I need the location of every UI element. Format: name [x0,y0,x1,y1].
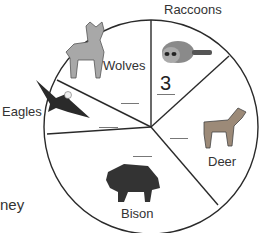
raccoons-value: 3 [160,72,171,95]
label-eagles: Eagles [2,104,42,119]
wolves-answer-blank[interactable] [121,103,139,104]
label-deer: Deer [208,154,236,169]
raccoons-answer-line [157,94,175,95]
label-raccoons: Raccoons [164,2,222,17]
bison-answer-blank[interactable] [133,156,152,157]
eagles-answer-blank[interactable] [99,127,118,128]
partial-text: ney [0,196,24,213]
deer-answer-blank[interactable] [170,138,188,139]
label-bison: Bison [121,206,154,221]
label-wolves: Wolves [103,58,145,73]
